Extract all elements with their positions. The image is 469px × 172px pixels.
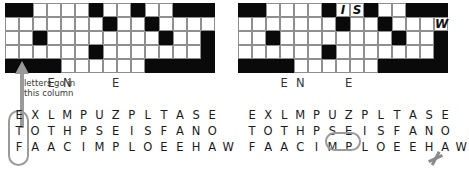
grid-cell[interactable] (322, 31, 336, 45)
grid-cell[interactable] (131, 17, 145, 31)
grid-cell[interactable] (280, 45, 294, 59)
grid-cell[interactable] (75, 59, 89, 73)
grid-cell[interactable] (420, 17, 434, 31)
grid-cell-blocked[interactable] (434, 59, 448, 73)
grid-cell-blocked[interactable] (159, 59, 173, 73)
grid-cell[interactable] (33, 3, 47, 17)
grid-cell[interactable] (131, 31, 145, 45)
grid-cell[interactable] (392, 3, 406, 17)
grid-cell[interactable] (131, 45, 145, 59)
grid-cell[interactable] (336, 45, 350, 59)
grid-cell[interactable] (364, 59, 378, 73)
grid-cell-blocked[interactable] (280, 59, 294, 73)
grid-cell[interactable] (47, 45, 61, 59)
grid-cell[interactable] (61, 31, 75, 45)
grid-cell[interactable] (392, 45, 406, 59)
grid-cell[interactable] (5, 45, 19, 59)
grid-cell[interactable] (238, 17, 252, 31)
grid-cell[interactable] (294, 3, 308, 17)
grid-cell[interactable] (378, 45, 392, 59)
grid-cell[interactable] (117, 45, 131, 59)
grid-cell[interactable] (392, 17, 406, 31)
grid-cell[interactable] (322, 59, 336, 73)
grid-cell[interactable] (33, 17, 47, 31)
grid-cell[interactable] (266, 3, 280, 17)
grid-cell-blocked[interactable] (5, 3, 19, 17)
grid-cell-blocked[interactable] (238, 3, 252, 17)
grid-cell-blocked[interactable] (238, 59, 252, 73)
grid-cell[interactable] (364, 31, 378, 45)
grid-cell[interactable] (19, 45, 33, 59)
grid-cell[interactable] (117, 17, 131, 31)
grid-cell[interactable] (131, 59, 145, 73)
grid-cell[interactable] (280, 31, 294, 45)
grid-cell-blocked[interactable] (252, 3, 266, 17)
grid-cell[interactable] (19, 17, 33, 31)
grid-cell-blocked[interactable] (131, 3, 145, 17)
grid-cell[interactable] (75, 31, 89, 45)
grid-cell[interactable] (159, 45, 173, 59)
grid-cell[interactable] (145, 31, 159, 45)
grid-cell[interactable] (378, 31, 392, 45)
crossword-grid-before[interactable] (5, 3, 215, 73)
grid-cell-blocked[interactable] (47, 59, 61, 73)
grid-cell-blocked[interactable] (392, 31, 406, 45)
grid-cell[interactable] (280, 3, 294, 17)
grid-cell[interactable] (47, 31, 61, 45)
grid-cell[interactable]: I (336, 3, 350, 17)
grid-cell-blocked[interactable] (19, 3, 33, 17)
grid-cell-blocked[interactable] (322, 3, 336, 17)
grid-cell[interactable] (406, 17, 420, 31)
grid-cell-blocked[interactable] (145, 17, 159, 31)
grid-cell[interactable] (89, 31, 103, 45)
grid-cell-blocked[interactable] (173, 59, 187, 73)
grid-cell[interactable] (187, 31, 201, 45)
grid-cell-blocked[interactable] (266, 59, 280, 73)
grid-cell-blocked[interactable] (434, 3, 448, 17)
grid-cell[interactable] (117, 31, 131, 45)
grid-cell[interactable] (294, 31, 308, 45)
grid-cell-blocked[interactable] (406, 59, 420, 73)
grid-cell[interactable]: S (350, 3, 364, 17)
grid-cell[interactable] (159, 17, 173, 31)
grid-cell[interactable] (61, 17, 75, 31)
grid-cell[interactable] (61, 45, 75, 59)
grid-cell[interactable] (103, 3, 117, 17)
grid-cell[interactable] (173, 45, 187, 59)
grid-cell[interactable] (350, 31, 364, 45)
grid-cell-blocked[interactable] (201, 31, 215, 45)
grid-cell[interactable] (406, 31, 420, 45)
grid-cell[interactable] (103, 31, 117, 45)
grid-cell-blocked[interactable] (201, 3, 215, 17)
grid-cell[interactable] (350, 59, 364, 73)
grid-cell[interactable] (238, 31, 252, 45)
grid-cell[interactable] (159, 3, 173, 17)
grid-cell[interactable] (336, 59, 350, 73)
grid-cell-blocked[interactable] (33, 31, 47, 45)
grid-cell[interactable] (266, 45, 280, 59)
grid-cell[interactable] (350, 45, 364, 59)
grid-cell[interactable] (145, 45, 159, 59)
grid-cell-blocked[interactable] (187, 59, 201, 73)
grid-cell-blocked[interactable] (434, 31, 448, 45)
grid-cell[interactable] (89, 17, 103, 31)
grid-cell-blocked[interactable] (364, 3, 378, 17)
grid-cell[interactable] (322, 17, 336, 31)
grid-cell[interactable] (89, 59, 103, 73)
grid-cell[interactable] (61, 3, 75, 17)
grid-cell[interactable] (5, 31, 19, 45)
grid-cell-blocked[interactable] (145, 59, 159, 73)
grid-cell[interactable] (75, 17, 89, 31)
grid-cell[interactable] (187, 17, 201, 31)
grid-cell[interactable] (378, 3, 392, 17)
grid-cell[interactable] (406, 45, 420, 59)
grid-cell-blocked[interactable] (266, 31, 280, 45)
grid-cell-blocked[interactable] (201, 59, 215, 73)
grid-cell[interactable] (5, 17, 19, 31)
grid-cell-blocked[interactable] (89, 3, 103, 17)
grid-cell-blocked[interactable] (159, 31, 173, 45)
grid-cell[interactable] (308, 45, 322, 59)
grid-cell-blocked[interactable] (420, 59, 434, 73)
grid-cell-blocked[interactable] (434, 45, 448, 59)
grid-cell[interactable] (47, 3, 61, 17)
